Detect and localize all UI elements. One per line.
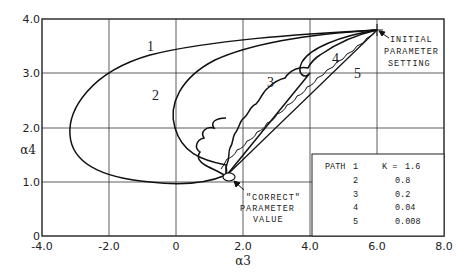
path-label-4: 4	[332, 51, 339, 66]
initial-label-1: INITIAL	[390, 35, 433, 45]
legend-header: PATH	[325, 162, 345, 172]
svg-text:1.0: 1.0	[23, 176, 41, 189]
path-label-3: 3	[267, 75, 274, 90]
curve-path-2	[173, 30, 377, 175]
svg-text:-2.0: -2.0	[98, 240, 119, 253]
svg-text:4.0: 4.0	[301, 240, 319, 253]
svg-text:0.008: 0.008	[395, 217, 421, 227]
correct-label-1: "CORRECT"	[246, 193, 301, 203]
correct-label-2: PARAMETER	[240, 204, 295, 214]
y-axis-label: α4	[20, 143, 36, 157]
svg-text:8.0: 8.0	[435, 240, 453, 253]
svg-text:1: 1	[353, 162, 358, 172]
svg-text:4.0: 4.0	[23, 13, 41, 26]
path-label-1: 1	[147, 39, 154, 54]
svg-text:2.0: 2.0	[234, 240, 252, 253]
svg-text:2.0: 2.0	[23, 122, 41, 135]
initial-label-3: SETTING	[388, 59, 431, 69]
y-axis-ticks: 4.0 3.0 2.0 1.0 0	[23, 13, 41, 243]
path-label-5: 5	[354, 66, 361, 81]
correct-label-3: VALUE	[253, 215, 284, 225]
initial-label-2: PARAMETER	[384, 47, 439, 57]
svg-text:6.0: 6.0	[368, 240, 386, 253]
path-label-2: 2	[152, 88, 159, 103]
svg-text:0.04: 0.04	[395, 203, 415, 213]
correct-point-marker	[223, 173, 235, 181]
svg-text:0.2: 0.2	[395, 190, 410, 200]
svg-text:0.8: 0.8	[395, 176, 410, 186]
chart-svg: INITIAL PARAMETER SETTING "CORRECT" PARA…	[0, 0, 476, 275]
svg-text:5: 5	[353, 217, 358, 227]
svg-text:0: 0	[173, 240, 180, 253]
svg-text:1.6: 1.6	[405, 162, 420, 172]
x-axis-label: α3	[235, 254, 251, 268]
svg-text:3: 3	[353, 190, 358, 200]
svg-text:3.0: 3.0	[23, 67, 41, 80]
svg-text:-4.0: -4.0	[31, 240, 52, 253]
curve-path-3-lobes	[197, 118, 226, 176]
x-axis-ticks: -4.0 -2.0 0 2.0 4.0 6.0 8.0	[31, 240, 452, 253]
svg-text:K =: K =	[382, 162, 397, 172]
svg-text:4: 4	[353, 203, 358, 213]
curve-path-5-scallops	[221, 30, 377, 169]
svg-text:2: 2	[353, 176, 358, 186]
